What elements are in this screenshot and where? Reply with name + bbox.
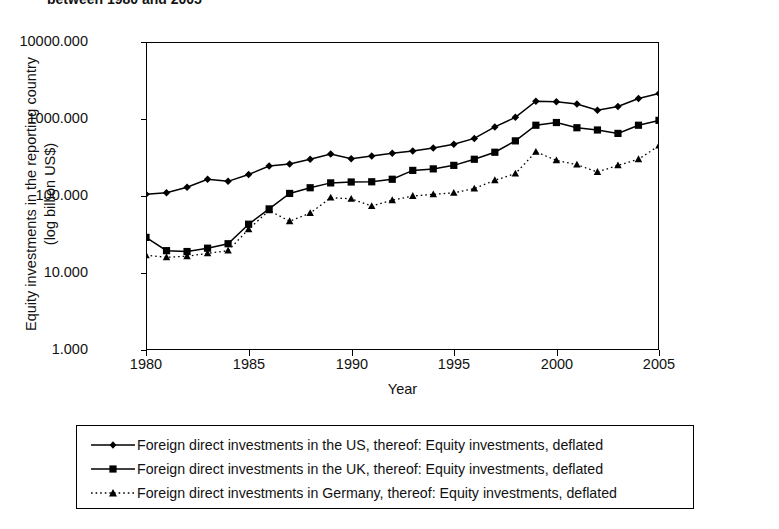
x-tick-label-2000: 2000	[517, 356, 597, 372]
legend-label-germany: Foreign direct investments in Germany, t…	[137, 485, 617, 501]
legend-label-us: Foreign direct investments in the US, th…	[137, 437, 603, 453]
square-marker-icon	[89, 460, 137, 478]
figure-caption: between 1980 and 2005	[0, 0, 779, 11]
diamond-marker-icon	[89, 436, 137, 454]
legend-item-germany: Foreign direct investments in Germany, t…	[89, 481, 693, 505]
chart-legend: Foreign direct investments in the US, th…	[76, 425, 694, 509]
x-tick-label-1985: 1985	[209, 356, 289, 372]
figure-caption-text: between 1980 and 2005	[47, 0, 202, 7]
x-tick-label-1995: 1995	[414, 356, 494, 372]
legend-item-uk: Foreign direct investments in the UK, th…	[89, 457, 693, 481]
plot-area	[146, 42, 659, 350]
x-tick-label-1980: 1980	[106, 356, 186, 372]
legend-item-us: Foreign direct investments in the US, th…	[89, 433, 693, 457]
series-layer	[146, 42, 659, 350]
x-axis-title: Year	[146, 381, 659, 397]
x-tick-label-1990: 1990	[312, 356, 392, 372]
triangle-marker-icon	[89, 484, 137, 502]
legend-label-uk: Foreign direct investments in the UK, th…	[137, 461, 603, 477]
x-tick-label-2005: 2005	[619, 356, 699, 372]
